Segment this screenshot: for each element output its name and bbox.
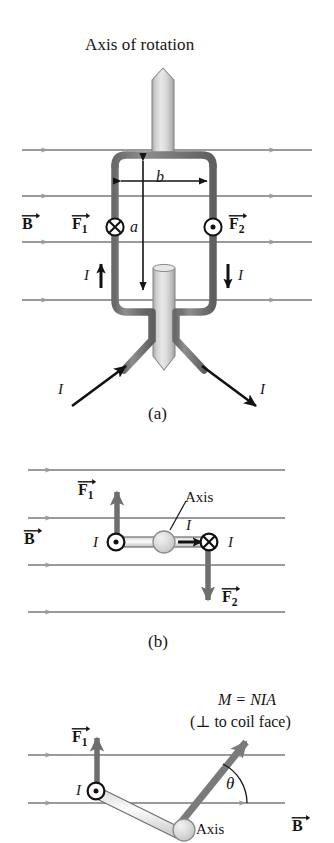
axis-ball-panel-b [153,531,175,553]
rotation-axis-shaft [152,68,174,155]
into-page-symbol-left [106,218,123,235]
panel-b-current-right-label: I [228,535,233,550]
panel-a-force-f1-label: F 1 [72,216,88,236]
panel-a-force-f2-label: F 2 [229,216,245,236]
out-of-page-symbol-panel-c [88,783,105,800]
panel-a-b-field-label: B [22,216,33,232]
panel-c-force-f1-label: F 1 [72,729,88,749]
panel-c-moment-label: M = NIA [218,692,276,708]
panel-a-lead-current-left-label: I [58,382,63,397]
lead-wire-right [176,312,204,370]
rotation-axis-shaft-lower [153,264,175,370]
panel-b-force-f1-label: F 1 [78,482,94,502]
panel-a-current-left-label: I [84,268,89,283]
physics-figure-torque-on-current-loop: Axis of rotation B F 1 F 2 b a [0,0,334,843]
panel-b-tag: (b) [148,633,168,650]
panel-b-graphics [28,470,285,612]
panel-b-b-field-label: B [24,531,35,547]
panel-b-current-left-label: I [93,535,98,550]
panel-c-b-field-label: B [292,818,303,834]
lead-current-arrows [72,366,256,406]
panel-a-title: Axis of rotation [85,36,194,53]
panel-a-lead-current-right-label: I [260,382,265,397]
panel-c-moment-note: (⊥ to coil face) [190,714,291,730]
axis-ball-panel-c [173,819,195,841]
panel-a-dimension-b-label: b [156,169,164,185]
lead-wire-left [124,312,152,370]
panel-b-force-f2-label: F 2 [222,589,238,609]
panel-b-current-mid-label: I [186,518,191,533]
lead-current-arrow-out [202,366,256,406]
panel-c-axis-label: Axis [196,822,224,837]
panel-c-graphics [28,738,285,841]
wire-right-side [179,166,213,312]
panel-a-graphics [22,68,312,406]
panel-c-current-left-label: I [76,783,81,798]
panel-a-current-right-label: I [238,268,243,283]
out-of-page-symbol-panel-b [108,534,125,551]
wire-left-side [115,166,149,312]
lead-current-arrow-in [72,366,126,406]
into-page-symbol-panel-b [201,534,218,551]
panel-a-tag: (a) [148,405,167,422]
axis-leader-line-panel-b [170,501,186,530]
out-of-page-symbol-right [204,218,221,235]
panel-c-angle-label: θ [226,775,234,792]
panel-a-dimension-a-label: a [130,219,138,235]
wire-top-side [115,155,213,166]
panel-b-axis-label: Axis [185,490,213,505]
